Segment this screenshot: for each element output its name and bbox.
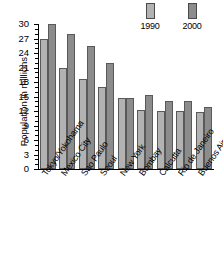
y-tick-minor bbox=[35, 77, 38, 78]
y-tick-label: 6 bbox=[24, 134, 29, 145]
y-tick-minor bbox=[35, 159, 38, 160]
y-tick-minor bbox=[35, 101, 38, 102]
y-tick-minor bbox=[35, 135, 38, 136]
y-tick-minor bbox=[35, 87, 38, 88]
y-tick-minor bbox=[35, 48, 38, 49]
bar-2000 bbox=[48, 24, 56, 169]
y-tick-minor bbox=[35, 43, 38, 44]
x-axis-category-labels: Tokyo/YokohamaMexico CitySao PauloSeoulN… bbox=[38, 172, 223, 266]
y-tick-label: 0 bbox=[24, 163, 29, 174]
y-tick-minor bbox=[35, 150, 38, 151]
y-tick-label: 9 bbox=[24, 120, 29, 131]
y-tick-minor bbox=[35, 29, 38, 30]
y-tick-minor bbox=[35, 63, 38, 64]
bar-1990 bbox=[118, 98, 126, 169]
y-tick-minor bbox=[35, 106, 38, 107]
bar-group bbox=[39, 24, 58, 169]
bar-chart-figure: 1990 2000 Population in millions 0369121… bbox=[0, 0, 223, 266]
legend-swatch-1990 bbox=[146, 3, 155, 19]
y-tick-minor bbox=[35, 34, 38, 35]
y-tick-label: 15 bbox=[18, 91, 29, 102]
y-tick-minor bbox=[35, 92, 38, 93]
y-tick-minor bbox=[35, 121, 38, 122]
y-tick-minor bbox=[35, 145, 38, 146]
y-tick-major: 0 bbox=[34, 169, 39, 170]
bar-1990 bbox=[157, 111, 165, 169]
y-tick-label: 27 bbox=[18, 33, 29, 44]
y-tick-minor bbox=[35, 116, 38, 117]
y-tick-label: 24 bbox=[18, 47, 29, 58]
y-tick-label: 18 bbox=[18, 76, 29, 87]
y-tick-minor bbox=[35, 164, 38, 165]
legend-swatch-2000 bbox=[188, 3, 197, 19]
bar-group bbox=[117, 24, 136, 169]
y-tick-label: 3 bbox=[24, 149, 29, 160]
y-tick-minor bbox=[35, 130, 38, 131]
y-tick-minor bbox=[35, 72, 38, 73]
bar-1990 bbox=[40, 39, 48, 170]
y-tick-minor bbox=[35, 58, 38, 59]
y-tick-label: 12 bbox=[18, 105, 29, 116]
bar-group bbox=[175, 24, 194, 169]
y-tick-label: 21 bbox=[18, 62, 29, 73]
y-tick-label: 30 bbox=[18, 18, 29, 29]
